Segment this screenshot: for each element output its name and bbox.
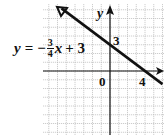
equation-label: y = − 3 4 x + 3 <box>14 38 85 59</box>
coordinate-graph <box>0 0 164 135</box>
line-arrow-icon <box>57 7 67 16</box>
eq-var: x <box>55 40 63 57</box>
grid-lines <box>43 4 164 135</box>
eq-denominator: 4 <box>48 49 53 59</box>
eq-equals: = <box>25 40 34 57</box>
eq-fraction: 3 4 <box>47 38 54 59</box>
y-axis-label: y <box>97 7 103 21</box>
y-intercept-label: 3 <box>113 34 120 47</box>
eq-rest: + 3 <box>65 40 85 57</box>
eq-lhs: y <box>14 40 21 57</box>
x-intercept-label: 4 <box>139 75 146 88</box>
eq-sign: − <box>37 40 46 57</box>
origin-label: 0 <box>99 75 106 88</box>
